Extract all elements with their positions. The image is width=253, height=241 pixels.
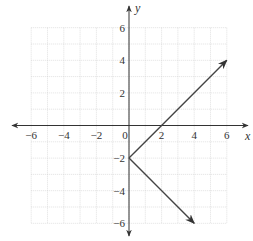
x-tick-label: −2 (91, 129, 103, 141)
x-tick-label: −6 (25, 129, 37, 141)
y-tick-label: 6 (120, 22, 126, 34)
y-tick-label: −6 (113, 217, 125, 229)
x-tick-label: 4 (191, 129, 197, 141)
x-tick-label: 0 (122, 129, 128, 141)
y-tick-label: 2 (120, 87, 126, 99)
x-tick-label: 6 (224, 129, 230, 141)
y-tick-label: −4 (113, 185, 125, 197)
x-axis-label: x (244, 129, 251, 143)
y-tick-label: 4 (120, 54, 126, 66)
x-tick-label: 2 (159, 129, 165, 141)
coordinate-plane: −6−4−20246−6−4−2246xy (0, 0, 253, 241)
x-tick-label: −4 (58, 129, 70, 141)
y-axis-label: y (134, 1, 141, 15)
tick-labels: −6−4−20246−6−4−2246xy (25, 1, 251, 229)
y-tick-label: −2 (113, 152, 125, 164)
